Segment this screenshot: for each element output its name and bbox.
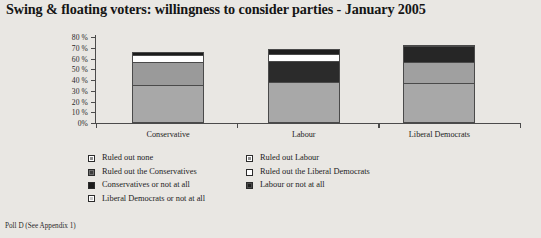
legend-swatch-icon <box>246 182 253 189</box>
bar-segment-ruled-out-labour <box>268 82 340 123</box>
legend-swatch-icon <box>88 155 95 162</box>
y-axis-tick <box>91 112 96 113</box>
y-axis-tick <box>91 59 96 60</box>
legend-item-label: Conservatives or not at all <box>102 181 190 189</box>
legend-item: Labour or not at all <box>246 179 476 192</box>
y-axis-tick-label: 20 % <box>72 97 88 106</box>
bar-segment-labour-or-not-at-all <box>268 61 340 83</box>
bar-segment-ruled-out-the-conservatives <box>403 62 475 84</box>
legend-swatch-icon <box>88 195 95 202</box>
footer-note: Poll D (See Appendix 1) <box>5 222 76 230</box>
bar-labour <box>268 49 340 123</box>
legend-swatch-icon <box>246 155 253 162</box>
x-axis-category-label: Liberal Democrats <box>409 130 470 139</box>
legend-item-label: Ruled out the Liberal Democrats <box>260 168 370 176</box>
plot-area: 0%10 %20 %30 %40 %50 %60 %70 %80 % <box>96 37 520 123</box>
x-axis-category-label: Conservative <box>146 130 189 139</box>
y-axis-tick-label: 40 % <box>72 76 88 85</box>
bar-segment-ruled-out-the-liberal-democrats <box>132 55 204 61</box>
chart-page: Swing & floating voters: willingness to … <box>0 0 541 238</box>
x-axis-line <box>95 123 521 124</box>
legend-swatch-icon <box>88 182 95 189</box>
x-axis-tick <box>378 123 379 128</box>
bar-segment-ruled-out-the-liberal-democrats <box>268 54 340 60</box>
y-axis-tick <box>91 48 96 49</box>
legend-column-right: Ruled out LabourRuled out the Liberal De… <box>246 152 476 192</box>
chart-title: Swing & floating voters: willingness to … <box>6 1 426 18</box>
legend-item-label: Labour or not at all <box>260 181 325 189</box>
bar-segment-liberal-democrats-or-not-at-all <box>403 45 475 46</box>
x-axis-tick <box>520 123 521 128</box>
bar-segment-conservatives-or-not-at-all <box>403 46 475 62</box>
y-axis-tick-label: 60 % <box>72 54 88 63</box>
legend-item-label: Ruled out Labour <box>260 154 319 162</box>
bar-liberal-democrats <box>403 45 475 123</box>
bar-segment-conservatives-or-not-at-all <box>268 49 340 54</box>
y-axis-tick-label: 0% <box>78 119 88 128</box>
y-axis-tick <box>91 102 96 103</box>
x-axis-tick <box>96 123 97 128</box>
legend-swatch-icon <box>88 169 95 176</box>
y-axis-tick-label: 30 % <box>72 86 88 95</box>
y-axis-tick <box>91 80 96 81</box>
y-axis-tick-label: 70 % <box>72 43 88 52</box>
legend-item: Ruled out the Liberal Democrats <box>246 165 476 178</box>
bar-segment-ruled-out-none <box>403 83 475 123</box>
y-axis-tick-label: 80 % <box>72 33 88 42</box>
bar-segment-ruled-out-none <box>132 85 204 123</box>
legend-swatch-icon <box>246 169 253 176</box>
y-axis-tick-label: 10 % <box>72 108 88 117</box>
legend-item: Ruled out Labour <box>246 152 476 165</box>
x-axis-category-label: Labour <box>292 130 316 139</box>
x-axis-tick <box>237 123 238 128</box>
bar-segment-conservatives-or-not-at-all <box>132 52 204 55</box>
legend-item-label: Ruled out the Conservatives <box>102 168 197 176</box>
bar-segment-ruled-out-the-conservatives <box>132 62 204 86</box>
legend-item: Liberal Democrats or not at all <box>88 192 303 205</box>
legend-item-label: Liberal Democrats or not at all <box>102 195 205 203</box>
legend-item-label: Ruled out none <box>102 154 153 162</box>
bar-conservative <box>132 52 204 123</box>
y-axis-tick <box>91 69 96 70</box>
y-axis-tick-label: 50 % <box>72 65 88 74</box>
y-axis-tick <box>91 91 96 92</box>
y-axis-tick <box>91 37 96 38</box>
